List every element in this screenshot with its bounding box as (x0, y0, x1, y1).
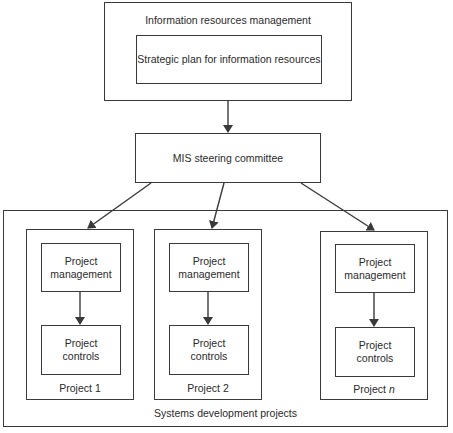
arrow-steering-to-project-2 (212, 183, 224, 228)
arrow-steering-to-project-n (301, 183, 374, 230)
connector-arrows (0, 0, 453, 433)
arrow-steering-to-project-1 (88, 183, 151, 228)
